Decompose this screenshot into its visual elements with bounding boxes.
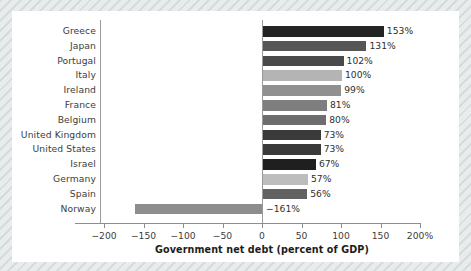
bar xyxy=(263,189,307,200)
x-tick-mark xyxy=(144,223,145,228)
x-tick-label: 0 xyxy=(259,230,265,241)
bar xyxy=(263,144,321,155)
bar xyxy=(263,56,344,67)
x-tick-mark xyxy=(223,223,224,228)
bar-row: 73% xyxy=(12,142,459,157)
bar-value-label: 153% xyxy=(387,25,413,37)
bar-value-label: 99% xyxy=(344,84,364,96)
x-tick-mark xyxy=(104,223,105,228)
x-tick-label: 150 xyxy=(372,230,390,241)
x-tick-label: 50 xyxy=(296,230,308,241)
bar-row: 153% xyxy=(12,24,459,39)
x-tick-mark xyxy=(420,223,421,228)
x-tick-label: −200 xyxy=(91,230,116,241)
bar xyxy=(263,85,341,96)
bar xyxy=(263,41,366,52)
bar-row: 100% xyxy=(12,68,459,83)
bar-value-label: 81% xyxy=(330,99,350,111)
bar xyxy=(263,174,308,185)
bar-value-label: 67% xyxy=(319,158,339,170)
bar-value-label: 57% xyxy=(311,173,331,185)
bar-row: 102% xyxy=(12,54,459,69)
bar-row: 56% xyxy=(12,187,459,202)
bar-row: 67% xyxy=(12,157,459,172)
bar-row: 81% xyxy=(12,98,459,113)
bar xyxy=(263,100,327,111)
chart-card: GreeceJapanPortugalItalyIrelandFranceBel… xyxy=(12,11,459,262)
bar-value-label: 73% xyxy=(324,129,344,141)
x-tick-label: −50 xyxy=(213,230,232,241)
bar-row: −161% xyxy=(12,202,459,217)
x-tick-mark xyxy=(341,223,342,228)
x-tick-mark xyxy=(183,223,184,228)
bar xyxy=(263,70,342,81)
x-tick-label: 200% xyxy=(407,230,433,241)
bar xyxy=(263,130,321,141)
bar xyxy=(263,115,326,126)
bar-row: 131% xyxy=(12,39,459,54)
bar-value-label: 73% xyxy=(324,143,344,155)
x-tick-mark xyxy=(302,223,303,228)
bar-row: 57% xyxy=(12,172,459,187)
bar xyxy=(135,204,262,215)
bar-chart-plot-area: GreeceJapanPortugalItalyIrelandFranceBel… xyxy=(12,11,459,262)
bar-row: 99% xyxy=(12,83,459,98)
bar-row: 73% xyxy=(12,128,459,143)
bar xyxy=(263,159,316,170)
bar-value-label: 80% xyxy=(329,114,349,126)
bar-value-label: 56% xyxy=(310,188,330,200)
bar-value-label: 100% xyxy=(345,69,371,81)
bar-series: 153%131%102%100%99%81%80%73%73%67%57%56%… xyxy=(12,24,459,216)
bar-value-label: 131% xyxy=(369,40,395,52)
bar-value-label: −161% xyxy=(266,203,300,215)
x-tick-mark xyxy=(381,223,382,228)
x-tick-mark xyxy=(262,223,263,228)
x-axis-spine xyxy=(75,223,420,224)
bar xyxy=(263,26,384,37)
bar-row: 80% xyxy=(12,113,459,128)
x-axis-title: Government net debt (percent of GDP) xyxy=(155,244,369,255)
x-tick-label: −150 xyxy=(131,230,156,241)
x-tick-label: 100 xyxy=(332,230,350,241)
bar-value-label: 102% xyxy=(347,55,373,67)
x-tick-label: −100 xyxy=(170,230,195,241)
